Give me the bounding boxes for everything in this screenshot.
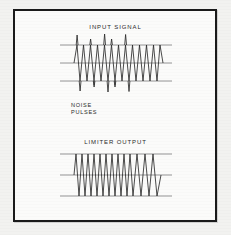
input-signal-title: INPUT SIGNAL [0,24,231,30]
noise-pulses-line-2: PULSES [71,109,97,116]
noise-pulse-3 [90,39,92,45]
noise-pulses-line-1: NOISE [71,102,97,109]
noise-pulse-1 [76,35,78,45]
noise-pulse-9 [125,35,127,46]
figure-root: INPUT SIGNAL NOISE [0,0,231,235]
input-signal-waveform [60,33,172,95]
limiter-output-title: LIMITER OUTPUT [0,139,231,145]
noise-pulse-10 [128,81,130,92]
noise-pulse-6 [107,81,109,92]
noise-pulse-2 [79,81,81,91]
limiter-output-waveform [60,148,172,202]
figure-plate: INPUT SIGNAL NOISE [0,0,231,235]
noise-pulse-7 [111,39,113,45]
noise-pulse-5 [104,34,106,45]
noise-pulses-annotation: NOISE PULSES [71,102,97,116]
